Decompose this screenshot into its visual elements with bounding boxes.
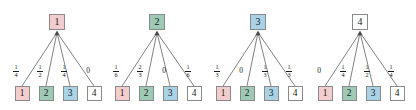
child-node-label: 1 (120, 88, 125, 98)
edge-weight-value: 0 (316, 67, 322, 75)
child-node-label: 2 (245, 88, 250, 98)
child-node-label: 3 (269, 88, 274, 98)
edge-weight-denominator: 2 (37, 71, 42, 79)
child-node-label: 3 (68, 88, 73, 98)
edge-weight-denominator: 3 (286, 71, 291, 79)
root-node-label: 3 (256, 17, 261, 27)
edge-weight-2-2: 23 (133, 64, 147, 78)
edge-weight-3-3: 13 (258, 64, 272, 78)
edge-weight-3-1: 13 (210, 64, 224, 78)
edge-weight-denominator: 3 (262, 71, 267, 79)
edge-weight-1-4: 0 (81, 67, 95, 75)
edge-weight-denominator: 6 (113, 71, 118, 79)
edge-weight-2-3: 0 (157, 67, 171, 75)
tree-group-4: 410214312414 (308, 0, 412, 110)
child-node-label: 2 (144, 88, 149, 98)
child-node-4: 4 (87, 86, 102, 101)
child-node-3: 3 (366, 86, 381, 101)
tree-group-3: 311320313413 (206, 0, 310, 110)
tree-group-1: 111421231440 (5, 0, 109, 110)
edge-weight-4-1: 0 (312, 67, 326, 75)
edge-weight-denominator: 3 (214, 71, 219, 79)
arrowhead-icon (357, 30, 362, 35)
edge-weight-4-3: 12 (360, 64, 374, 78)
child-node-4: 4 (187, 86, 202, 101)
edge-weight-denominator: 6 (185, 71, 190, 79)
edge-weight-value: 0 (238, 67, 244, 75)
child-node-1: 1 (318, 86, 333, 101)
arrowhead-icon (54, 30, 59, 35)
child-node-label: 2 (44, 88, 49, 98)
edge-weight-3-2: 0 (234, 67, 248, 75)
child-node-2: 2 (342, 86, 357, 101)
edge-weight-denominator: 2 (364, 71, 369, 79)
child-node-2: 2 (139, 86, 154, 101)
child-node-1: 1 (115, 86, 130, 101)
edge-weight-2-1: 16 (109, 64, 123, 78)
edge-weight-value: 0 (85, 67, 91, 75)
child-node-4: 4 (390, 86, 405, 101)
child-node-label: 4 (192, 88, 197, 98)
child-node-label: 3 (168, 88, 173, 98)
root-node-1: 1 (49, 14, 65, 30)
root-node-4: 4 (352, 14, 368, 30)
edge-weight-denominator: 4 (388, 71, 393, 79)
child-node-label: 3 (371, 88, 376, 98)
child-node-label: 1 (221, 88, 226, 98)
child-node-label: 4 (293, 88, 298, 98)
edge-weight-3-4: 13 (282, 64, 296, 78)
edge-weight-4-2: 14 (336, 64, 350, 78)
edge-2-to-3 (157, 33, 170, 87)
edge-weight-denominator: 3 (137, 71, 142, 79)
child-node-label: 1 (323, 88, 328, 98)
child-node-2: 2 (39, 86, 54, 101)
edge-weight-1-3: 14 (57, 64, 71, 78)
edge-weight-denominator: 4 (61, 71, 66, 79)
edge-weight-value: 0 (161, 67, 167, 75)
child-node-label: 1 (20, 88, 25, 98)
child-node-4: 4 (288, 86, 303, 101)
child-node-3: 3 (163, 86, 178, 101)
child-node-label: 2 (347, 88, 352, 98)
root-node-3: 3 (250, 14, 266, 30)
root-node-2: 2 (149, 14, 165, 30)
child-node-1: 1 (15, 86, 30, 101)
edge-weight-1-1: 14 (9, 64, 23, 78)
root-node-label: 1 (55, 17, 60, 27)
child-node-label: 4 (395, 88, 400, 98)
child-node-2: 2 (240, 86, 255, 101)
edge-weight-denominator: 4 (13, 71, 18, 79)
root-node-label: 2 (155, 17, 160, 27)
edge-weight-1-2: 12 (33, 64, 47, 78)
edge-weight-2-4: 16 (181, 64, 195, 78)
transition-tree-diagram: 1114212314402116223304163113203134134102… (0, 0, 416, 110)
edge-weight-denominator: 4 (340, 71, 345, 79)
root-node-label: 4 (358, 17, 363, 27)
tree-group-2: 211622330416 (105, 0, 209, 110)
edge-weight-4-4: 14 (384, 64, 398, 78)
child-node-label: 4 (92, 88, 97, 98)
arrowhead-icon (154, 30, 159, 35)
child-node-3: 3 (264, 86, 279, 101)
arrowhead-icon (255, 30, 260, 35)
child-node-1: 1 (216, 86, 231, 101)
child-node-3: 3 (63, 86, 78, 101)
